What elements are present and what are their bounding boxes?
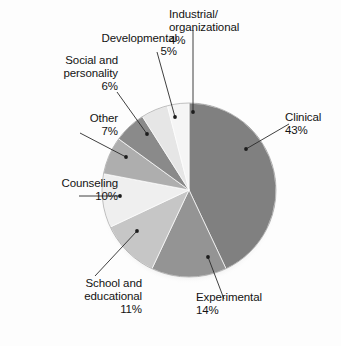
slice-label-social-name: Social and personality <box>63 54 118 79</box>
leader-dot-industrial <box>191 110 195 114</box>
slice-label-industrial: Industrial/ organizational 4% <box>169 8 264 48</box>
slice-label-other: Other 7% <box>18 112 118 138</box>
leader-dot-developmental <box>173 115 177 119</box>
leader-dot-counseling <box>118 194 122 198</box>
slice-label-clinical: Clinical 43% <box>285 111 341 137</box>
slice-label-school-name: School and educational <box>84 277 142 302</box>
leader-dot-school <box>135 229 139 233</box>
slice-label-clinical-pct: 43% <box>285 124 308 136</box>
slice-label-other-name: Other <box>90 112 118 124</box>
slice-label-school: School and educational 11% <box>30 277 142 317</box>
slice-label-experimental: Experimental 14% <box>196 291 306 317</box>
slice-label-other-pct: 7% <box>102 125 118 137</box>
pie-chart-figure: Industrial/ organizational 4% Developmen… <box>0 0 341 346</box>
slice-label-developmental-pct: 5% <box>161 45 177 57</box>
slice-label-social: Social and personality 6% <box>18 54 118 94</box>
slice-label-experimental-name: Experimental <box>196 291 262 303</box>
slice-label-clinical-name: Clinical <box>285 111 321 123</box>
leader-dot-other <box>124 155 128 159</box>
leader-dot-experimental <box>206 255 210 259</box>
slice-label-social-pct: 6% <box>102 80 118 92</box>
slice-label-school-pct: 11% <box>120 303 142 315</box>
slice-label-counseling-name: Counseling <box>61 177 118 189</box>
leader-dot-clinical <box>244 147 248 151</box>
slice-label-experimental-pct: 14% <box>196 304 219 316</box>
pie-slices-group <box>102 103 276 277</box>
slice-label-counseling: Counseling 10% <box>2 177 118 203</box>
slice-label-developmental-name: Developmental <box>102 32 177 44</box>
slice-label-counseling-pct: 10% <box>95 190 118 202</box>
leader-dot-social <box>145 132 149 136</box>
slice-label-industrial-name: Industrial/ organizational <box>169 8 239 33</box>
